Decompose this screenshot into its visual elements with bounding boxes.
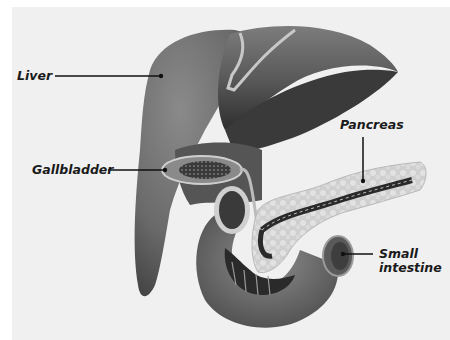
pancreas-label: Pancreas [340, 118, 404, 132]
small-intestine-pointer-dot [341, 252, 345, 256]
liver-pointer-dot [159, 74, 163, 78]
gallbladder-label: Gallbladder [32, 163, 113, 177]
small-intestine-label: Small intestine [379, 247, 449, 275]
gallbladder-pointer-dot [163, 168, 167, 172]
pancreas-pointer-dot [361, 179, 365, 183]
liver-label: Liver [17, 69, 52, 83]
